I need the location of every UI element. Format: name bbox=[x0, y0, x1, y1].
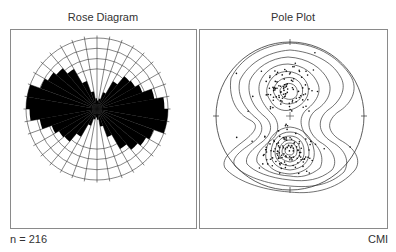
pole-plot-panel bbox=[199, 29, 388, 229]
pole-title: Pole Plot bbox=[199, 11, 387, 23]
pole-plot-chart bbox=[200, 30, 387, 228]
sample-count-label: n = 216 bbox=[10, 233, 47, 245]
rose-diagram-panel bbox=[10, 29, 197, 229]
rose-diagram-chart bbox=[11, 30, 196, 228]
rose-title: Rose Diagram bbox=[10, 11, 196, 23]
credit-label: CMI bbox=[368, 233, 388, 245]
density-contours bbox=[224, 43, 358, 193]
